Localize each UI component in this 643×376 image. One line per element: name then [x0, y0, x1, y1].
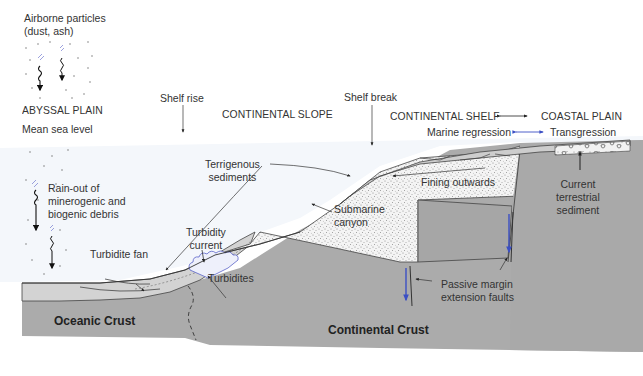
- region-abyssal-plain: ABYSSAL PLAIN: [22, 104, 103, 116]
- label-line: Airborne particles: [24, 12, 106, 25]
- label-line: (dust, ash): [24, 25, 106, 38]
- fault-block: [418, 200, 512, 262]
- label-line: sediments: [205, 171, 260, 184]
- fault-block-right: [510, 140, 643, 352]
- label-transgression: Transgression: [550, 126, 616, 139]
- label-line: Turbidity: [186, 226, 226, 239]
- label-passive-margin-faults: Passive margin extension faults: [441, 278, 514, 304]
- label-line: biogenic debris: [48, 208, 126, 221]
- label-line: sediment: [556, 204, 600, 217]
- label-line: current: [186, 239, 226, 252]
- label-line: Terrigenous: [205, 158, 260, 171]
- label-line: Submarine: [334, 203, 385, 216]
- label-oceanic-crust: Oceanic Crust: [54, 314, 135, 328]
- label-continental-crust: Continental Crust: [328, 323, 429, 337]
- label-turbidity-current: Turbidity current: [186, 226, 226, 252]
- label-mean-sea-level: Mean sea level: [22, 123, 93, 136]
- label-line: extension faults: [441, 291, 514, 304]
- label-line: minerogenic and: [48, 195, 126, 208]
- label-shelf-break: Shelf break: [344, 91, 397, 104]
- label-terrigenous-sediments: Terrigenous sediments: [205, 158, 260, 184]
- label-fining-outwards: Fining outwards: [421, 176, 495, 189]
- label-current-terrestrial-sediment: Current terrestrial sediment: [556, 178, 600, 217]
- region-coastal-plain: COASTAL PLAIN: [541, 110, 622, 122]
- label-line: Rain-out of: [48, 182, 126, 195]
- region-continental-slope: CONTINENTAL SLOPE: [222, 108, 333, 120]
- region-continental-shelf: CONTINENTAL SHELF: [390, 110, 500, 122]
- label-line: canyon: [334, 216, 385, 229]
- label-turbidites: Turbidites: [208, 272, 254, 285]
- label-shelf-rise: Shelf rise: [160, 92, 204, 105]
- label-airborne-particles: Airborne particles (dust, ash): [24, 12, 106, 38]
- label-line: Passive margin: [441, 278, 514, 291]
- falling-particle-arrow: [39, 66, 42, 90]
- label-line: terrestrial: [556, 191, 600, 204]
- label-line: Current: [556, 178, 600, 191]
- airborne-particles: [25, 41, 92, 98]
- label-turbidite-fan: Turbidite fan: [90, 248, 148, 261]
- label-rainout: Rain-out of minerogenic and biogenic deb…: [48, 182, 126, 221]
- label-submarine-canyon: Submarine canyon: [334, 203, 385, 229]
- label-marine-regression: Marine regression: [427, 126, 511, 139]
